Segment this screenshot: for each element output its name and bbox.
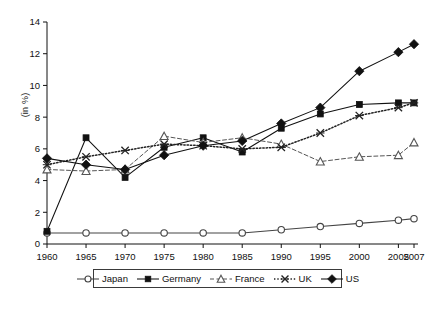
y-tick-label: 14 [29,16,40,27]
legend-marker-filled-square [136,273,160,285]
legend-label: US [346,273,359,284]
open-circle-icon [239,230,245,236]
marker-filled-square [161,144,167,150]
marker-open-circle [239,230,245,236]
filled-diamond-icon [81,160,90,169]
marker-filled-square [44,228,50,234]
open-circle-icon [411,215,417,221]
series-lines [42,40,418,237]
marker-cross-x [316,129,324,136]
marker-open-circle [122,230,128,236]
y-tick-label: 10 [29,80,40,91]
legend-marker-cross-x [273,273,297,285]
legend-marker-open-triangle [209,273,233,285]
marker-open-circle [395,217,401,223]
x-tick-label: 1970 [115,251,136,262]
y-tick-label: 0 [35,238,40,249]
legend-label: UK [299,273,312,284]
x-tick-label: 1980 [193,251,214,262]
marker-open-circle [411,215,417,221]
marker-cross-x [355,112,363,119]
x-tick-label: 1975 [154,251,175,262]
legend-entry-uk: UK [273,273,312,285]
series-germany [44,100,417,234]
open-circle-icon [161,230,167,236]
filled-diamond-icon [409,40,418,49]
legend-marker-open-circle [76,273,100,285]
filled-square-icon [356,101,362,107]
open-circle-icon [278,227,284,233]
marker-filled-square [356,101,362,107]
open-circle-icon [395,217,401,223]
y-tick-label: 8 [35,112,40,123]
legend-entry-germany: Germany [136,273,201,285]
series-japan [44,215,417,236]
marker-filled-square [122,174,128,180]
open-circle-icon [200,230,206,236]
legend-marker-filled-diamond [320,273,344,285]
marker-filled-diamond [327,274,336,283]
filled-square-icon [83,135,89,141]
marker-cross-x [121,147,129,154]
x-tick-label: 1965 [75,251,96,262]
marker-open-circle [317,223,323,229]
y-tick-label: 2 [35,207,40,218]
filled-diamond-icon [159,151,168,160]
marker-filled-diamond [409,40,418,49]
filled-square-icon [145,276,151,282]
legend-label: Germany [162,273,201,284]
filled-square-icon [239,149,245,155]
open-circle-icon [317,223,323,229]
x-tick-label: 2007 [403,251,424,262]
marker-open-circle [161,230,167,236]
legend-label: France [235,273,265,284]
x-tick-label: 2000 [349,251,370,262]
open-triangle-icon [160,132,168,139]
filled-square-icon [122,174,128,180]
marker-open-circle [278,227,284,233]
open-circle-icon [122,230,128,236]
marker-open-triangle [410,139,418,146]
x-tick-label: 1985 [232,251,253,262]
legend-entry-france: France [209,273,265,285]
y-tick-label: 6 [35,143,40,154]
marker-open-triangle [160,132,168,139]
filled-square-icon [161,144,167,150]
marker-open-circle [83,230,89,236]
x-tick-label: 1960 [36,251,57,262]
marker-filled-diamond [394,47,403,56]
marker-open-circle [85,276,91,282]
filled-diamond-icon [327,274,336,283]
figure: (in %) 024681012141960196519701975198019… [0,0,426,309]
y-tick-label: 12 [29,48,40,59]
marker-cross-x [281,275,289,282]
open-circle-icon [83,230,89,236]
marker-filled-square [239,149,245,155]
y-tick-label: 4 [35,175,40,186]
x-tick-label: 1995 [310,251,331,262]
series-france [43,132,418,174]
marker-cross-x [82,153,90,160]
marker-filled-diamond [159,151,168,160]
open-circle-icon [85,276,91,282]
legend-label: Japan [102,273,128,284]
line-chart-plot: 0246810121419601965197019751980198519901… [0,0,426,309]
marker-open-circle [356,220,362,226]
marker-filled-square [83,135,89,141]
filled-square-icon [44,228,50,234]
open-triangle-icon [410,139,418,146]
legend-entry-us: US [320,273,359,285]
filled-diamond-icon [394,47,403,56]
marker-filled-square [145,276,151,282]
x-tick-label: 1990 [271,251,292,262]
marker-open-circle [200,230,206,236]
legend-entry-japan: Japan [76,273,128,285]
marker-filled-diamond [81,160,90,169]
chart-legend: JapanGermanyFranceUKUS [93,269,342,288]
open-circle-icon [356,220,362,226]
